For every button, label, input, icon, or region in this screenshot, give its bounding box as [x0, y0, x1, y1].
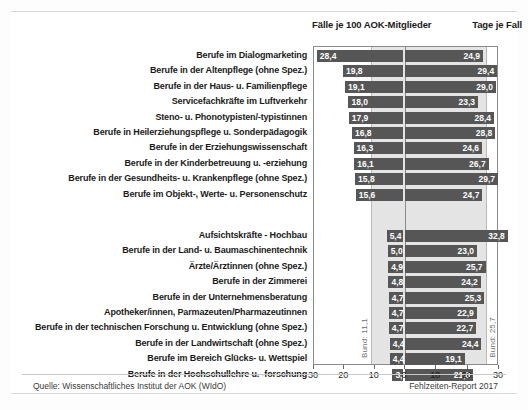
- bar-faelle: 4,4: [390, 338, 403, 350]
- header-tage: Tage je Fall: [472, 19, 522, 30]
- bar-tage: 19,1: [405, 353, 465, 365]
- bar-faelle: 16,8: [352, 127, 403, 139]
- bar-faelle: 4,7: [389, 292, 403, 304]
- bar-faelle: 18,0: [348, 96, 403, 108]
- bar-value-tage: 28,4: [474, 112, 491, 124]
- bar-value-faelle: 17,9: [352, 112, 369, 124]
- category-label-column: Berufe im DialogmarketingBerufe in der A…: [23, 46, 311, 365]
- bar-value-faelle: 19,8: [346, 65, 363, 77]
- bar-value-tage: 23,0: [458, 245, 475, 257]
- bar-row: 18,023,3: [314, 96, 497, 108]
- bar-value-tage: 24,2: [461, 276, 478, 288]
- bar-faelle: 16,1: [354, 158, 403, 170]
- bar-faelle: 15,6: [356, 189, 403, 201]
- bar-row: 4,419,1: [314, 353, 497, 365]
- bar-value-faelle: 4,4: [393, 338, 405, 350]
- bar-value-tage: 24,6: [463, 142, 480, 154]
- category-label: Servicefachkräfte im Luftverkehr: [172, 95, 307, 107]
- bar-value-tage: 29,4: [478, 65, 495, 77]
- bar-value-faelle: 4,8: [391, 276, 403, 288]
- bar-faelle: 4,7: [389, 322, 403, 334]
- bar-row: 4,725,3: [314, 292, 497, 304]
- bar-row: 4,424,4: [314, 338, 497, 350]
- bar-faelle: 4,7: [389, 307, 403, 319]
- bar-row: 16,828,8: [314, 127, 497, 139]
- bar-value-faelle: 16,3: [357, 142, 374, 154]
- source-note: Quelle: Wissenschaftliches Institut der …: [33, 381, 226, 391]
- category-label: Berufe in der Altenpflege (ohne Spez.): [150, 64, 307, 76]
- bar-row: 4,925,7: [314, 261, 497, 273]
- bar-tage: 22,7: [405, 322, 476, 334]
- bar-value-tage: 26,7: [469, 158, 486, 170]
- bar-faelle: 16,3: [354, 142, 403, 154]
- category-label: Berufe im Bereich Glücks- u. Wettspiel: [147, 352, 307, 364]
- category-label: Steno- u. Phonotypisten/-typistinnen: [155, 111, 307, 123]
- bar-row: 15,624,7: [314, 189, 497, 201]
- bar-value-tage: 24,4: [462, 338, 479, 350]
- bar-faelle: 17,9: [349, 112, 403, 124]
- bar-faelle: 19,1: [345, 81, 403, 93]
- figure-frame: Fälle je 100 AOK-Mitglieder Tage je Fall…: [11, 11, 517, 394]
- bar-value-tage: 29,7: [479, 173, 496, 185]
- bar-tage: 23,0: [405, 245, 477, 257]
- bar-value-tage: 22,9: [457, 307, 474, 319]
- category-label: Berufe in der Haus- u. Familienpflege: [154, 80, 307, 92]
- bar-tage: 28,8: [405, 127, 495, 139]
- bar-row: 15,829,7: [314, 173, 497, 185]
- footer: Quelle: Wissenschaftliches Institut der …: [22, 374, 506, 396]
- bar-faelle: 28,4: [317, 50, 403, 62]
- chart-page: Fälle je 100 AOK-Mitglieder Tage je Fall…: [0, 0, 528, 410]
- axis-tick: [404, 365, 405, 369]
- bar-row: 16,324,6: [314, 142, 497, 154]
- bar-faelle: 4,9: [388, 261, 403, 273]
- bar-faelle: 4,8: [388, 276, 403, 288]
- bar-value-tage: 24,9: [463, 50, 480, 62]
- bar-faelle: 5,4: [387, 230, 403, 242]
- category-label: Berufe in Heilerziehungspflege u. Sonder…: [93, 126, 307, 138]
- bar-tage: 26,7: [405, 158, 489, 170]
- bar-value-faelle: 4,7: [392, 322, 404, 334]
- category-label: Apotheker/innen, Parmazeuten/Pharmazeuti…: [104, 306, 307, 318]
- bar-value-tage: 25,3: [465, 292, 482, 304]
- category-label: Berufe in der Landwirtschaft (ohne Spez.…: [135, 337, 307, 349]
- bar-value-tage: 32,8: [488, 230, 505, 242]
- header-faelle: Fälle je 100 AOK-Mitglieder: [312, 19, 431, 30]
- bar-value-faelle: 4,4: [393, 353, 405, 365]
- category-label: Aufsichtskräfte - Hochbau: [199, 229, 307, 241]
- bar-tage: 23,3: [405, 96, 478, 108]
- category-label: Berufe in der Land- u. Baumaschinentechn…: [122, 244, 307, 256]
- axis-tick: [343, 365, 344, 369]
- bar-value-tage: 29,0: [476, 81, 493, 93]
- bar-value-tage: 22,7: [457, 322, 474, 334]
- bar-faelle: 15,8: [355, 173, 403, 185]
- bar-value-faelle: 15,8: [358, 173, 375, 185]
- bar-tage: 25,3: [405, 292, 484, 304]
- bar-row: 4,722,9: [314, 307, 497, 319]
- bar-row: 5,023,0: [314, 245, 497, 257]
- axis-tick: [374, 365, 375, 369]
- bar-tage: 29,7: [405, 173, 498, 185]
- bar-faelle: 4,4: [390, 353, 403, 365]
- bar-value-faelle: 16,1: [357, 158, 374, 170]
- bar-value-faelle: 4,7: [392, 292, 404, 304]
- report-label: Fehlzeiten-Report 2017: [409, 381, 498, 391]
- axis-tick: [435, 365, 436, 369]
- bar-tage: 29,4: [405, 65, 497, 77]
- category-label: Berufe in der Unternehmensberatung: [153, 291, 307, 303]
- bar-value-faelle: 19,1: [348, 81, 365, 93]
- category-label: Berufe in der Erziehungswissenschaft: [149, 141, 307, 153]
- bar-tage: 25,7: [405, 261, 486, 273]
- bar-tage: 24,6: [405, 142, 482, 154]
- bar-value-faelle: 18,0: [351, 96, 368, 108]
- bar-value-faelle: 5,4: [390, 230, 402, 242]
- bar-value-tage: 19,1: [445, 353, 462, 365]
- bar-row: 19,129,0: [314, 81, 497, 93]
- bar-faelle: 19,8: [343, 65, 403, 77]
- bar-value-faelle: 16,8: [355, 127, 372, 139]
- bar-value-faelle: 15,6: [359, 189, 376, 201]
- bar-value-faelle: 4,9: [391, 261, 403, 273]
- bar-tage: 29,0: [405, 81, 496, 93]
- bar-faelle: 5,0: [388, 245, 403, 257]
- bar-value-faelle: 4,7: [392, 307, 404, 319]
- bar-value-faelle: 5,0: [391, 245, 403, 257]
